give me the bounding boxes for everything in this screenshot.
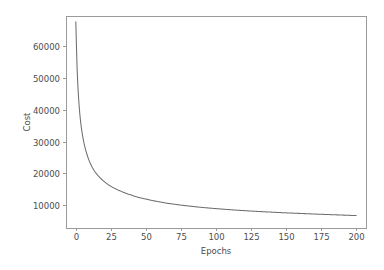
x-axis-title: Epochs — [201, 246, 232, 256]
y-tick-label: 50000 — [33, 74, 60, 84]
y-tick-label: 20000 — [33, 169, 60, 179]
cost-vs-epochs-chart: 0255075100125150175200 10000200003000040… — [0, 0, 384, 270]
x-tick-label: 0 — [74, 232, 79, 242]
figure-canvas: 0255075100125150175200 10000200003000040… — [0, 0, 384, 270]
x-tick-label: 150 — [278, 232, 294, 242]
axes-background — [66, 16, 366, 228]
y-tick-label: 30000 — [33, 138, 60, 148]
y-tick-label: 40000 — [33, 106, 60, 116]
x-tick-label: 125 — [243, 232, 259, 242]
y-axis-title: Cost — [22, 112, 32, 132]
x-tick-label: 200 — [348, 232, 364, 242]
x-tick-label: 175 — [313, 232, 329, 242]
x-tick-label: 50 — [141, 232, 152, 242]
y-tick-label: 10000 — [33, 201, 60, 211]
x-tick-label: 25 — [106, 232, 117, 242]
x-tick-label: 75 — [176, 232, 187, 242]
x-tick-label: 100 — [208, 232, 224, 242]
y-tick-label: 60000 — [33, 42, 60, 52]
